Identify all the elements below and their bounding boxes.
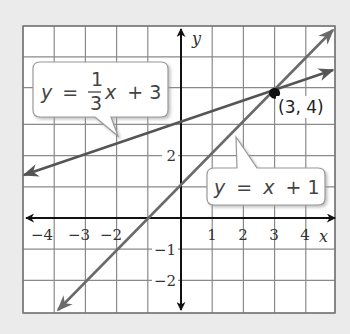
callout1-numerator: 1 (91, 68, 103, 90)
y-tick-2: 2 (166, 147, 176, 165)
x-tick-2: 2 (238, 226, 248, 244)
x-axis-label: x (319, 227, 328, 246)
x-tick-1: 1 (207, 226, 217, 244)
callout1-text-rest: x + 3 (104, 81, 161, 103)
x-tick-4: 4 (300, 226, 310, 244)
intersection-label: (3, 4) (278, 97, 324, 117)
x-tick-m2: −2 (100, 226, 122, 244)
callout1-denominator: 3 (90, 92, 102, 114)
y-axis-label: y (191, 29, 202, 48)
coordinate-plane: y x −4 −3 −2 1 2 3 4 2 −1 −2 (3, 4) (0, 0, 350, 334)
x-tick-3: 3 (269, 226, 279, 244)
x-tick-m4: −4 (31, 226, 53, 244)
x-tick-m3: −3 (68, 226, 90, 244)
callout2-text: y = x + 1 (213, 176, 320, 198)
y-tick-m2: −2 (154, 272, 176, 290)
graph-figure: y x −4 −3 −2 1 2 3 4 2 −1 −2 (3, 4) (0, 0, 350, 334)
y-tick-m1: −1 (154, 241, 176, 259)
